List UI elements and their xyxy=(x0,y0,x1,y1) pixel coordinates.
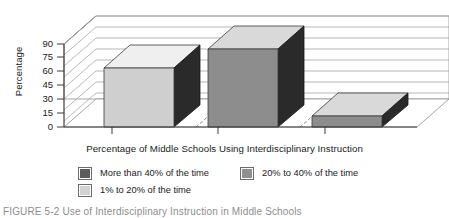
bar-2-medium xyxy=(208,26,304,127)
bar-1-light xyxy=(104,45,200,127)
legend-item-20-to-40[interactable]: 20% to 40% of the time xyxy=(240,166,358,180)
y-tick-label: 45 xyxy=(29,80,53,90)
y-tick-label: 15 xyxy=(29,108,53,118)
figure-caption-text: FIGURE 5-2 Use of Interdisciplinary Inst… xyxy=(3,206,449,218)
y-axis xyxy=(57,44,64,127)
y-tick-label: 0 xyxy=(29,122,53,132)
legend-swatch-more-than-40 xyxy=(78,167,92,180)
legend-label-1-to-20: 1% to 20% of the time xyxy=(100,185,191,196)
y-tick-label: 30 xyxy=(29,94,53,104)
x-axis xyxy=(64,127,417,134)
y-tick-label: 60 xyxy=(29,66,53,76)
chart-legend: More than 40% of the time 20% to 40% of … xyxy=(0,166,449,200)
legend-label-20-to-40: 20% to 40% of the time xyxy=(262,168,358,179)
legend-item-more-than-40[interactable]: More than 40% of the time xyxy=(78,166,209,180)
figure-root: 90 75 60 45 30 15 0 Percentage Percentag… xyxy=(0,0,449,218)
y-tick-label: 75 xyxy=(29,52,53,62)
legend-swatch-1-to-20 xyxy=(78,184,92,197)
y-tick-label: 90 xyxy=(29,39,53,49)
legend-swatch-20-to-40 xyxy=(240,167,254,180)
legend-item-1-to-20[interactable]: 1% to 20% of the time xyxy=(78,183,191,197)
figure-caption: FIGURE 5-2 Use of Interdisciplinary Inst… xyxy=(3,206,449,218)
legend-label-more-than-40: More than 40% of the time xyxy=(100,168,209,179)
y-axis-title: Percentage xyxy=(13,27,24,117)
chart-plot-area: 90 75 60 45 30 15 0 Percentage xyxy=(0,0,449,140)
x-axis-title: Percentage of Middle Schools Using Inter… xyxy=(0,143,449,154)
bar-chart-3d xyxy=(0,0,449,140)
